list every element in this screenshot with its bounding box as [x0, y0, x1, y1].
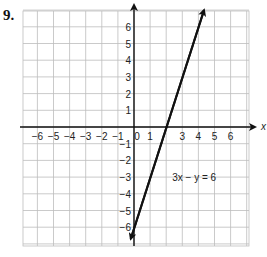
svg-text:3: 3: [180, 131, 186, 142]
svg-text:3: 3: [125, 72, 131, 83]
svg-text:−5: −5: [48, 131, 60, 142]
svg-text:−2: −2: [120, 155, 132, 166]
svg-text:6: 6: [125, 22, 131, 33]
x-axis-label: x: [260, 121, 267, 132]
svg-text:−4: −4: [120, 189, 132, 200]
svg-text:1: 1: [125, 105, 131, 116]
svg-text:4: 4: [196, 131, 202, 142]
svg-text:5: 5: [125, 39, 131, 50]
svg-text:1: 1: [147, 131, 153, 142]
svg-text:−1: −1: [120, 139, 132, 150]
svg-text:2: 2: [125, 89, 131, 100]
svg-text:0: 0: [134, 131, 140, 142]
axes: [20, 5, 255, 246]
svg-text:−2: −2: [96, 131, 108, 142]
coordinate-plane: −6−5−4−3−2−1013456654321−1−2−3−4−5−6 x 3…: [0, 0, 267, 257]
svg-text:6: 6: [228, 131, 234, 142]
svg-text:−6: −6: [32, 131, 44, 142]
svg-text:4: 4: [125, 55, 131, 66]
svg-text:−5: −5: [120, 206, 132, 217]
grid-lines: [23, 10, 249, 246]
svg-text:−6: −6: [120, 222, 132, 233]
svg-text:−3: −3: [80, 131, 92, 142]
svg-text:5: 5: [212, 131, 218, 142]
line-series: [131, 10, 204, 239]
svg-text:−4: −4: [64, 131, 76, 142]
svg-text:−3: −3: [120, 172, 132, 183]
equation-label: 3x − y = 6: [172, 172, 216, 183]
